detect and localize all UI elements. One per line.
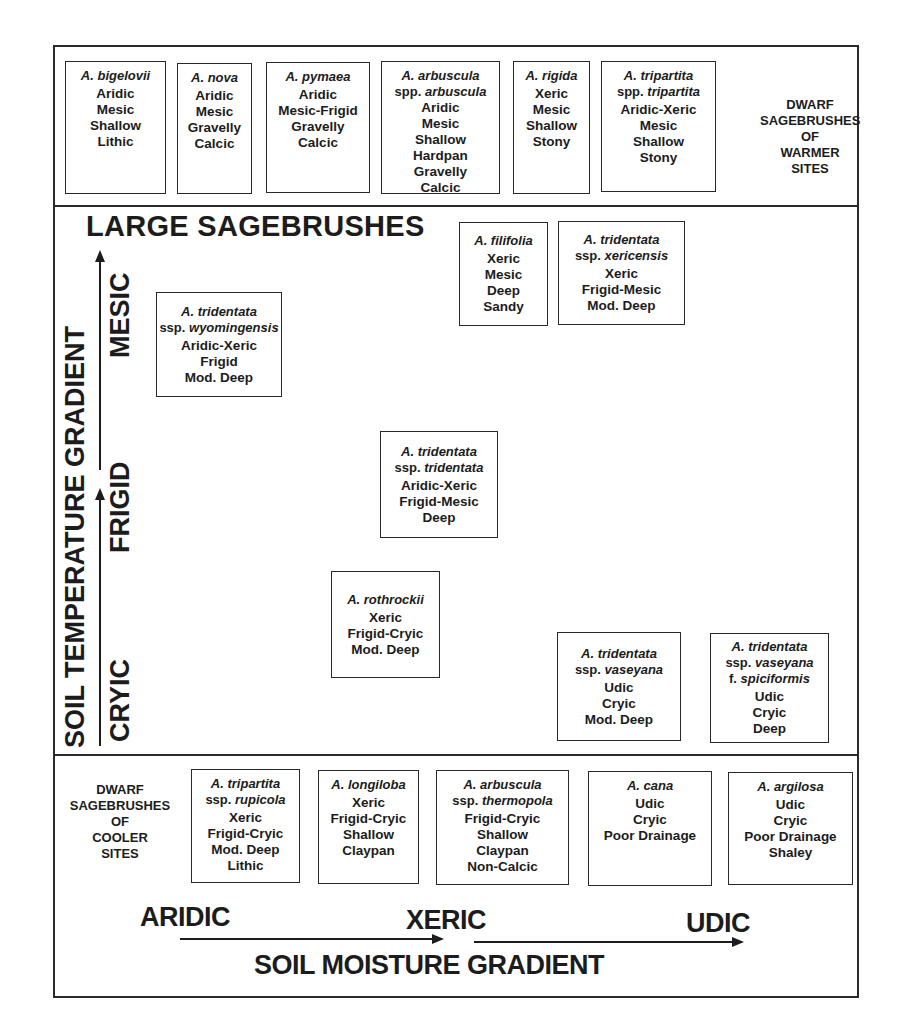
trait: Claypan <box>476 843 529 859</box>
trait: Mod. Deep <box>211 842 279 858</box>
trait: Xeric <box>605 266 638 282</box>
cooler-sites-label: DWARF SAGEBRUSHES OF COOLER SITES <box>60 782 180 862</box>
divider-cooler <box>53 754 859 756</box>
form-prefix: f. <box>729 671 737 686</box>
species-name: A. tripartita <box>624 68 693 84</box>
species-box: A. tridentatassp. xericensisXericFrigid-… <box>558 221 685 325</box>
trait: Frigid-Cryic <box>348 626 424 642</box>
trait: Mesic <box>533 102 571 118</box>
subspecies-name: ssp. rupicola <box>205 792 285 808</box>
species-box: A. rigidaXericMesicShallowStony <box>513 61 590 194</box>
species-name: A. tripartita <box>211 776 280 792</box>
species-box: A. argilosaUdicCryicPoor DrainageShaley <box>728 772 853 885</box>
label-line: SAGEBRUSHES <box>760 113 860 129</box>
temperature-level-cryic: CRYIC <box>105 659 136 742</box>
species-box: A. tripartitassp. rupicolaXericFrigid-Cr… <box>191 769 300 883</box>
trait: Udic <box>604 680 633 696</box>
trait: Mod. Deep <box>185 370 253 386</box>
label-line: SAGEBRUSHES <box>60 798 180 814</box>
divider-warmer <box>53 205 859 207</box>
moisture-level-udic: UDIC <box>686 908 750 939</box>
species-name: A. tridentata <box>732 639 808 655</box>
trait: Aridic <box>421 100 459 116</box>
trait: Cryic <box>633 812 667 828</box>
subspecies-prefix: spp. <box>395 84 422 99</box>
trait: Aridic <box>195 88 233 104</box>
trait: Gravelly <box>291 119 344 135</box>
warmer-sites-label: DWARF SAGEBRUSHES OF WARMER SITES <box>760 97 860 177</box>
species-box: A. rothrockiiXericFrigid-CryicMod. Deep <box>331 571 440 678</box>
species-box: A. filifoliaXericMesicDeepSandy <box>459 222 548 326</box>
trait: Shallow <box>633 134 684 150</box>
species-box: A. arbusculassp. thermopolaFrigid-CryicS… <box>436 770 569 885</box>
species-name: A. tridentata <box>181 304 257 320</box>
trait: Claypan <box>342 843 395 859</box>
trait: Gravelly <box>188 120 241 136</box>
label-line: DWARF <box>60 782 180 798</box>
trait: Udic <box>635 796 664 812</box>
trait: Gravelly <box>414 164 467 180</box>
species-name: A. rothrockii <box>347 592 424 608</box>
subspecies-prefix: ssp. <box>575 248 601 263</box>
trait: Deep <box>487 283 520 299</box>
trait: Mod. Deep <box>351 642 419 658</box>
trait: Aridic <box>96 86 134 102</box>
species-name: A. argilosa <box>757 779 823 795</box>
subspecies-prefix: ssp. <box>725 655 751 670</box>
subspecies-name: spp. tripartita <box>617 84 700 100</box>
trait: Calcic <box>421 180 461 196</box>
trait: Xeric <box>535 86 568 102</box>
species-box: A. novaAridicMesicGravellyCalcic <box>177 63 252 194</box>
form-name: f. spiciformis <box>729 671 810 687</box>
species-name: A. arbuscula <box>463 777 541 793</box>
trait: Lithic <box>228 858 264 874</box>
moisture-level-aridic: ARIDIC <box>140 902 230 933</box>
large-sagebrushes-title: LARGE SAGEBRUSHES <box>86 210 425 243</box>
form-epithet: spiciformis <box>741 671 810 686</box>
species-box: A. bigeloviiAridicMesicShallowLithic <box>65 61 166 194</box>
species-name: A. arbuscula <box>401 68 479 84</box>
trait: Shaley <box>769 845 813 861</box>
subspecies-name: ssp. tridentata <box>395 460 484 476</box>
subspecies-prefix: spp. <box>617 84 644 99</box>
subspecies-epithet: rupicola <box>235 792 286 807</box>
label-line: SITES <box>60 846 180 862</box>
species-box: A. tridentatassp. vaseyanaf. spiciformis… <box>710 633 829 743</box>
species-box: A. pymaeaAridicMesic-FrigidGravellyCalci… <box>266 62 370 193</box>
moisture-arrow-left <box>180 938 442 940</box>
trait: Hardpan <box>413 148 468 164</box>
trait: Mesic-Frigid <box>278 103 358 119</box>
subspecies-epithet: xericensis <box>605 248 669 263</box>
trait: Deep <box>753 721 786 737</box>
subspecies-epithet: tripartita <box>647 84 700 99</box>
trait: Mesic <box>422 116 460 132</box>
label-line: COOLER <box>60 830 180 846</box>
trait: Aridic <box>299 87 337 103</box>
subspecies-epithet: arbuscula <box>425 84 486 99</box>
trait: Mesic <box>97 102 135 118</box>
trait: Frigid-Mesic <box>399 494 479 510</box>
trait: Aridic-Xeric <box>401 478 477 494</box>
trait: Non-Calcic <box>467 859 538 875</box>
temperature-axis-title: SOIL TEMPERATURE GRADIENT <box>60 326 91 748</box>
trait: Stony <box>533 134 571 150</box>
species-name: A. bigelovii <box>81 68 150 84</box>
trait: Mod. Deep <box>587 298 655 314</box>
label-line: SITES <box>760 161 860 177</box>
trait: Frigid-Cryic <box>208 826 284 842</box>
subspecies-name: ssp. xericensis <box>575 248 668 264</box>
subspecies-name: ssp. vaseyana <box>575 662 663 678</box>
subspecies-epithet: vaseyana <box>605 662 664 677</box>
species-name: A. tridentata <box>581 646 657 662</box>
trait: Shallow <box>526 118 577 134</box>
subspecies-name: spp. arbuscula <box>395 84 487 100</box>
trait: Calcic <box>298 135 338 151</box>
species-box: A. longilobaXericFrigid-CryicShallowClay… <box>318 770 419 884</box>
subspecies-epithet: thermopola <box>482 793 553 808</box>
species-name: A. pymaea <box>285 69 350 85</box>
trait: Deep <box>422 510 455 526</box>
trait: Udic <box>776 797 805 813</box>
trait: Poor Drainage <box>744 829 836 845</box>
subspecies-name: ssp. wyomingensis <box>159 320 278 336</box>
species-box: A. tridentatassp. wyomingensisAridic-Xer… <box>156 292 282 397</box>
